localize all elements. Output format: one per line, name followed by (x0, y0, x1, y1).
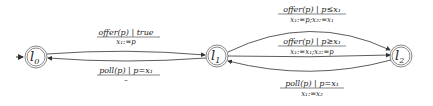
svg-text:x₁:=x₂: x₁:=x₂ (301, 90, 323, 98)
automaton-diagram: l0 l1 l2 offer(p) | true x₁:=p poll(p) |… (0, 0, 433, 106)
label-l2-l1: poll(p) | p=x₁ x₁:=x₂ (280, 79, 344, 98)
state-l2: l2 (390, 45, 412, 67)
svg-text:–: – (124, 76, 128, 84)
state-l1: l1 (206, 45, 228, 67)
edge-l0-l1 (47, 51, 205, 55)
label-l0-l1: offer(p) | true x₁:=p (97, 28, 160, 46)
svg-text:poll(p) | p=x₁: poll(p) | p=x₁ (99, 66, 153, 75)
label-l1-l2-upper: offer(p) | p≤x₁ x₁:=p;x₂:=x₁ (278, 5, 346, 24)
svg-text:x₁:=p: x₁:=p (116, 38, 136, 46)
edge-l1-l0 (48, 58, 206, 61)
svg-text:offer(p) | true: offer(p) | true (98, 28, 153, 37)
state-l0: l0 (25, 46, 47, 68)
edge-l2-l1 (228, 60, 391, 71)
svg-text:offer(p) | p≤x₁: offer(p) | p≤x₁ (283, 5, 341, 14)
label-l1-l2-middle: offer(p) | p≥x₁ x₁:=x₁;x₂:=p (278, 37, 346, 56)
svg-text:x₁:=p;x₂:=x₁: x₁:=p;x₂:=x₁ (290, 16, 334, 24)
label-l1-l0: poll(p) | p=x₁ – (97, 66, 160, 84)
svg-text:offer(p) | p≥x₁: offer(p) | p≥x₁ (283, 37, 341, 46)
svg-text:poll(p) | p=x₁: poll(p) | p=x₁ (285, 79, 339, 88)
svg-text:x₁:=x₁;x₂:=p: x₁:=x₁;x₂:=p (290, 48, 334, 56)
